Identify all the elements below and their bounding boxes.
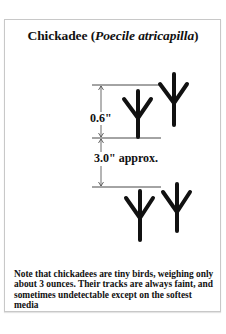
bird-track-icon [160, 74, 187, 125]
bird-track-icon [126, 191, 153, 240]
track-length-label: 0.6" [89, 112, 113, 125]
stride-label: 3.0" approx. [93, 152, 159, 165]
bird-track-icon [124, 91, 151, 137]
dimension-arrows [99, 86, 104, 186]
note-text: Note that chickadees are tiny birds, wei… [14, 269, 218, 311]
bird-track-icon [163, 184, 190, 231]
